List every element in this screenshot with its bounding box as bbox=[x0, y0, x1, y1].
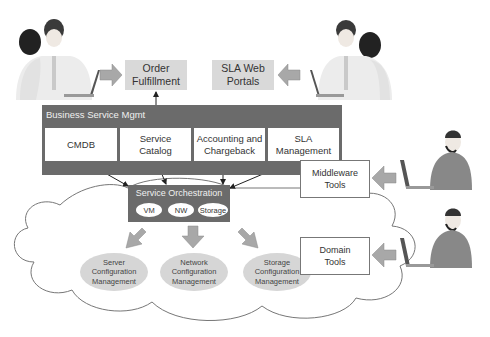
accounting-chargeback-box: Accounting and Chargeback bbox=[194, 128, 265, 161]
service-orchestration-title: Service Orchestration bbox=[128, 188, 230, 198]
vm-pill: VM bbox=[136, 203, 162, 217]
business-users-right-illustration bbox=[310, 20, 392, 100]
business-users-left-illustration bbox=[16, 19, 100, 100]
middleware-operator-illustration bbox=[400, 131, 472, 191]
sla-web-portals-label: SLA Web Portals bbox=[221, 62, 265, 88]
nw-pill: NW bbox=[168, 203, 194, 217]
storage-config-mgmt-label: Storage Configuration Management bbox=[255, 258, 300, 287]
domain-tools-label: Domain Tools bbox=[319, 244, 350, 268]
accounting-chargeback-label: Accounting and Chargeback bbox=[197, 133, 263, 157]
order-fulfillment-label: Order Fulfillment bbox=[132, 62, 180, 88]
storage-pill: Storage bbox=[198, 203, 228, 217]
server-config-mgmt-label: Server Configuration Management bbox=[92, 258, 137, 287]
arrow-left-to-sla-portals bbox=[278, 64, 300, 86]
arrow-left-to-middleware-tools bbox=[372, 166, 396, 190]
cmdb-box: CMDB bbox=[45, 128, 117, 161]
server-config-mgmt-ellipse: Server Configuration Management bbox=[80, 253, 148, 291]
cmdb-label: CMDB bbox=[67, 139, 95, 151]
business-service-mgmt-panel: Business Service Mgmt CMDB Service Catal… bbox=[42, 105, 342, 175]
service-orchestration-panel: Service Orchestration VM NW Storage bbox=[128, 185, 230, 222]
network-config-mgmt-ellipse: Network Configuration Management bbox=[160, 253, 228, 291]
network-config-mgmt-label: Network Configuration Management bbox=[172, 258, 217, 287]
order-fulfillment-box: Order Fulfillment bbox=[125, 60, 187, 90]
middleware-tools-box: Middleware Tools bbox=[300, 160, 370, 198]
service-catalog-box: Service Catalog bbox=[120, 128, 191, 161]
service-catalog-label: Service Catalog bbox=[139, 133, 172, 157]
sla-web-portals-box: SLA Web Portals bbox=[212, 60, 274, 90]
domain-tools-box: Domain Tools bbox=[300, 237, 370, 275]
business-service-mgmt-title: Business Service Mgmt bbox=[46, 109, 145, 120]
sla-management-label: SLA Management bbox=[276, 133, 331, 157]
arrow-right-to-order-fulfillment bbox=[100, 64, 122, 86]
sla-management-box: SLA Management bbox=[268, 128, 339, 161]
middleware-tools-label: Middleware Tools bbox=[312, 167, 358, 191]
